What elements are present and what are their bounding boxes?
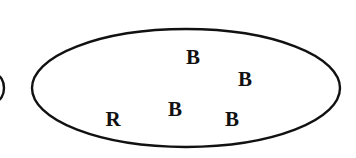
ball-label-b-3: B xyxy=(168,99,182,120)
ball-label-b-4: B xyxy=(225,109,239,130)
figure-canvas: B B B R B xyxy=(0,0,356,158)
ball-label-b-1: B xyxy=(186,47,200,68)
ball-label-b-2: B xyxy=(238,69,252,90)
ball-label-layer: B B B R B xyxy=(0,0,356,158)
ball-label-r-1: R xyxy=(105,109,120,130)
